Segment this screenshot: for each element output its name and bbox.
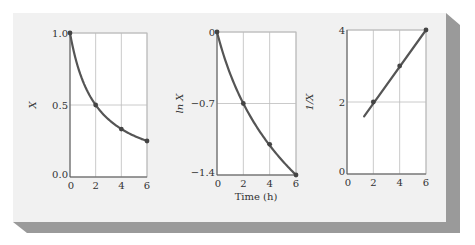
data-point-marker xyxy=(397,64,402,69)
x-tick-label: 4 xyxy=(266,178,272,189)
x-tick-label: 4 xyxy=(118,180,124,191)
x-tick-label: 6 xyxy=(423,177,429,188)
x-tick-label: 2 xyxy=(240,178,246,189)
y-tick-label: 1.0 xyxy=(52,28,68,39)
data-point-marker xyxy=(93,103,98,108)
x-tick-label: 0 xyxy=(345,177,351,188)
x-axis-label: Time (h) xyxy=(235,191,278,202)
y-tick-label: 0.0 xyxy=(52,169,68,180)
y-tick-label: 0 xyxy=(209,27,215,38)
y-tick-label: 0 xyxy=(339,166,345,177)
y-tick-label: 4 xyxy=(339,25,345,36)
data-point-marker xyxy=(68,31,73,36)
data-point-marker xyxy=(241,101,246,106)
y-axis-label: 1/X xyxy=(304,93,315,111)
data-point-marker xyxy=(119,127,124,132)
data-point-marker xyxy=(371,100,376,105)
y-tick-label: 2 xyxy=(339,97,345,108)
y-tick-label: 0.5 xyxy=(52,100,68,111)
y-axis-label: X xyxy=(27,101,38,110)
figure: 02460.00.51.0X 0246−1.4−0.70ln X 0246024… xyxy=(0,0,475,245)
data-point-marker xyxy=(294,173,299,178)
x-tick-label: 6 xyxy=(144,180,150,191)
y-tick-label: −0.7 xyxy=(191,98,215,109)
data-point-marker xyxy=(267,142,272,147)
x-tick-label: 2 xyxy=(92,180,98,191)
data-point-marker xyxy=(215,30,220,35)
data-point-marker xyxy=(145,139,150,144)
data-point-marker xyxy=(424,28,429,33)
x-tick-label: 2 xyxy=(370,177,376,188)
y-axis-label: ln X xyxy=(174,93,185,114)
x-tick-label: 0 xyxy=(68,180,74,191)
x-tick-label: 0 xyxy=(215,178,221,189)
y-tick-label: −1.4 xyxy=(191,167,215,178)
x-tick-label: 6 xyxy=(293,178,299,189)
x-tick-label: 4 xyxy=(396,177,402,188)
